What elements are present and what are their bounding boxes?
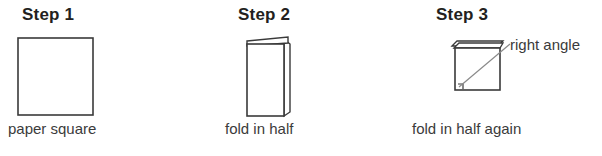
step-1-group: Step 1 paper square <box>0 0 200 156</box>
folded-paper-half <box>200 0 400 120</box>
paper-square-outline <box>0 0 200 120</box>
folded-paper-quarter <box>400 0 602 120</box>
step-1-caption: paper square <box>8 120 96 137</box>
step-2-group: Step 2 fold in half <box>200 0 400 156</box>
step-2-caption: fold in half <box>225 120 293 137</box>
step-3-caption: fold in half again <box>412 120 521 137</box>
paper-folding-diagram: Step 1 paper square Step 2 fold in half … <box>0 0 602 156</box>
right-angle-annotation-label: right angle <box>510 36 580 53</box>
step-3-group: Step 3 right angle fold in half again <box>400 0 602 156</box>
